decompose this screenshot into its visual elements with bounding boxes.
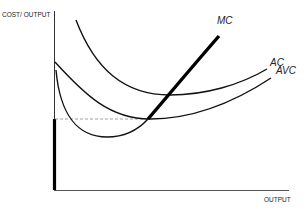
mc-label: MC: [217, 15, 233, 26]
mc-curve-supply: [148, 36, 219, 119]
y-axis-label: COST/ OUTPUT: [2, 11, 50, 18]
mc-curve-lower: [56, 70, 148, 137]
avc-curve: [55, 62, 271, 119]
cost-curves-chart: COST/ OUTPUT OUTPUT MC AC AVC: [0, 0, 306, 210]
x-axis-label: OUTPUT: [264, 196, 291, 203]
ac-curve: [76, 20, 267, 95]
avc-label: AVC: [275, 65, 297, 76]
